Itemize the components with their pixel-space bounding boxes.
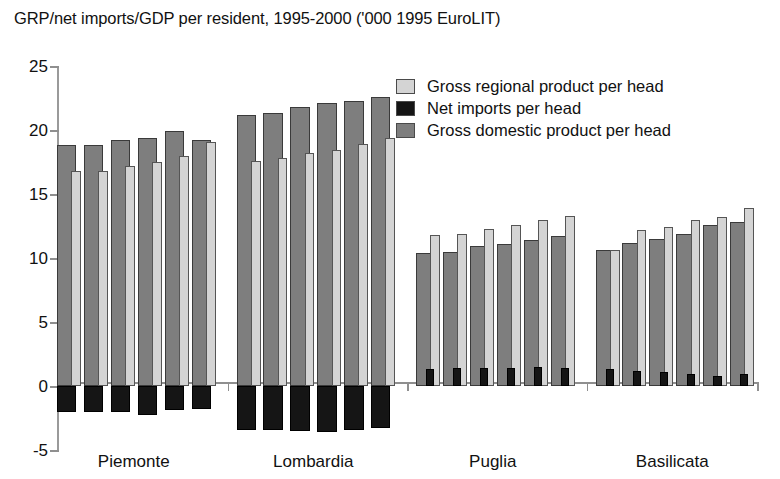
bar-net-imports: [480, 368, 488, 386]
bar-group-basilicata-2000: [730, 66, 757, 450]
bar-net-imports: [534, 367, 542, 386]
bar-grp: [664, 227, 674, 386]
legend-label: Net imports per head: [427, 99, 581, 118]
bar-grp: [430, 235, 440, 386]
bar-net-imports: [317, 386, 336, 432]
bar-grp: [511, 225, 521, 386]
bar-net-imports: [165, 386, 184, 410]
y-tick-label: 0: [39, 378, 48, 395]
bar-grp: [565, 216, 575, 386]
bar-net-imports: [57, 386, 76, 412]
group-separator: [587, 382, 589, 391]
bar-net-imports: [453, 368, 461, 386]
chart-container: GRP/net imports/GDP per resident, 1995-2…: [0, 0, 780, 479]
bar-group-lombardia-2000: [371, 66, 398, 450]
bar-group-piemonte-1995: [57, 66, 84, 450]
bar-group-piemonte-1999: [165, 66, 192, 450]
bar-grp: [484, 229, 494, 386]
chart-title: GRP/net imports/GDP per resident, 1995-2…: [14, 9, 500, 28]
bar-group-piemonte-2000: [192, 66, 219, 450]
legend-item-2: Gross domestic product per head: [396, 120, 671, 141]
legend-label: Gross domestic product per head: [427, 121, 671, 140]
bar-group-lombardia-1999: [344, 66, 371, 450]
axis-end-tick: [757, 382, 759, 391]
bar-grp: [385, 138, 395, 386]
legend-swatch-icon: [396, 79, 415, 94]
bar-net-imports: [660, 372, 668, 386]
legend-label: Gross regional product per head: [427, 77, 664, 96]
y-tick-label: 20: [29, 122, 48, 139]
bar-net-imports: [426, 369, 434, 386]
bar-grp: [179, 156, 189, 386]
bar-net-imports: [371, 386, 390, 428]
bar-group-piemonte-1997: [111, 66, 138, 450]
bar-grp: [305, 153, 315, 386]
bar-grp: [744, 208, 754, 386]
region-label-lombardia: Lombardia: [273, 452, 353, 472]
bar-grp: [637, 230, 647, 386]
bar-net-imports: [561, 368, 569, 386]
y-tick-label: 10: [29, 250, 48, 267]
legend-item-0: Gross regional product per head: [396, 76, 671, 97]
region-label-puglia: Puglia: [469, 452, 516, 472]
bar-grp: [278, 158, 288, 386]
bar-grp: [538, 220, 548, 386]
region-label-basilicata: Basilicata: [636, 452, 709, 472]
bar-group-lombardia-1998: [317, 66, 344, 450]
bar-net-imports: [713, 376, 721, 386]
region-label-piemonte: Piemonte: [98, 452, 170, 472]
group-separator: [407, 382, 409, 391]
bar-net-imports: [344, 386, 363, 430]
legend-item-1: Net imports per head: [396, 98, 671, 119]
bar-grp: [251, 161, 261, 386]
bar-net-imports: [740, 374, 748, 386]
bar-group-lombardia-1997: [290, 66, 317, 450]
bar-grp: [206, 142, 216, 386]
bar-net-imports: [507, 368, 515, 386]
bar-group-basilicata-1999: [703, 66, 730, 450]
bar-grp: [125, 166, 135, 386]
bar-net-imports: [111, 386, 130, 412]
bar-grp: [98, 171, 108, 386]
bar-net-imports: [290, 386, 309, 431]
bar-net-imports: [633, 371, 641, 386]
y-tick-label: 25: [29, 58, 48, 75]
bar-net-imports: [687, 374, 695, 386]
bar-net-imports: [138, 386, 157, 415]
bar-net-imports: [84, 386, 103, 412]
bar-group-lombardia-1995: [237, 66, 264, 450]
bar-grp: [358, 144, 368, 386]
y-tick-label: 5: [39, 314, 48, 331]
bar-group-basilicata-1998: [676, 66, 703, 450]
bar-grp: [152, 162, 162, 386]
chart-legend: Gross regional product per headNet impor…: [396, 76, 671, 142]
legend-swatch-icon: [396, 123, 415, 138]
bar-net-imports: [606, 369, 614, 386]
y-tick-mark: [50, 450, 59, 452]
y-tick-label: -5: [33, 442, 48, 459]
bar-grp: [71, 171, 81, 386]
y-tick-label: 15: [29, 186, 48, 203]
bar-grp: [332, 150, 342, 386]
bar-grp: [691, 220, 701, 386]
bar-grp: [457, 234, 467, 386]
bar-grp: [717, 217, 727, 386]
bar-net-imports: [192, 386, 211, 409]
bar-net-imports: [237, 386, 256, 430]
bar-group-piemonte-1996: [84, 66, 111, 450]
bar-group-lombardia-1996: [263, 66, 290, 450]
bar-net-imports: [263, 386, 282, 430]
bar-grp: [610, 250, 620, 386]
bar-group-piemonte-1998: [138, 66, 165, 450]
legend-swatch-icon: [396, 101, 415, 116]
group-separator: [228, 382, 230, 391]
